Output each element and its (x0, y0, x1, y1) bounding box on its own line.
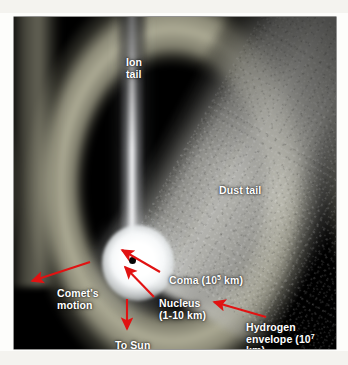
label-hydrogen-prefix: envelope (10 (246, 333, 311, 345)
comet-photograph: Ion tail Dust tail Coma (105 km) Nucleus… (14, 17, 336, 349)
label-hydrogen-suffix: km) (246, 344, 265, 349)
label-coma-suffix: km) (221, 274, 243, 286)
coma-blob (102, 225, 174, 301)
figure-frame: Ion tail Dust tail Coma (105 km) Nucleus… (0, 0, 348, 365)
scan-edge-top (0, 0, 348, 13)
label-nucleus: Nucleus(1-10 km) (159, 298, 206, 321)
nucleus-dot (129, 257, 136, 264)
label-ion-tail: Ion tail (126, 57, 142, 80)
scan-edge-bottom (0, 351, 348, 365)
hydrogen-envelope-inner-limb (14, 17, 62, 287)
label-nucleus-line1: Nucleus (159, 297, 201, 309)
label-coma: Coma (105 km) (169, 275, 243, 287)
label-dust-tail: Dust tail (219, 185, 261, 197)
label-hydrogen-envelope: Hydrogenenvelope (107 km) (246, 322, 336, 349)
label-nucleus-line2: (1-10 km) (159, 309, 206, 321)
label-coma-prefix: Coma (10 (169, 274, 217, 286)
label-hydrogen-exponent: 7 (311, 332, 315, 339)
label-to-sun: To Sun (115, 340, 150, 349)
label-hydrogen-line1: Hydrogen (246, 321, 296, 333)
label-comets-motion: Comet's motion (57, 288, 99, 311)
